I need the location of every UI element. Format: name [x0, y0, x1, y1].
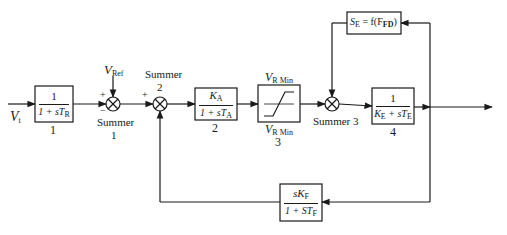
block-1-transfer-function: 1 1 + sTR	[35, 86, 73, 122]
summer-2-label: Summer	[145, 69, 182, 80]
block-1-number: 1	[50, 124, 56, 136]
summer-2-number: 2	[157, 82, 163, 93]
block-2-transfer-function: KA 1 + sTA	[195, 88, 237, 120]
reference-label-vref: VRef	[104, 63, 124, 78]
block-4-transfer-function: 1 KE + sTE	[372, 88, 414, 124]
feedback-block-kf: sKF 1 + STF	[280, 184, 322, 221]
summer-2-plus-sign: +	[142, 90, 148, 100]
diagram-lines	[0, 0, 507, 235]
block-3-number: 3	[275, 136, 281, 148]
block-4-number: 4	[390, 126, 396, 138]
saturation-function-block: SE = f(FFD)	[350, 17, 397, 29]
limiter-upper-label: VR Min	[265, 71, 293, 85]
summer-3-label: Summer 3	[313, 116, 359, 127]
summer-1-label: Summer	[97, 117, 134, 128]
block-2-number: 2	[212, 122, 218, 134]
input-label-vt: Vt	[10, 110, 21, 125]
summer-1-plus-sign: +	[100, 90, 106, 100]
summer-1-minus-sign: −	[100, 106, 106, 116]
summer-1-number: 1	[111, 130, 117, 141]
